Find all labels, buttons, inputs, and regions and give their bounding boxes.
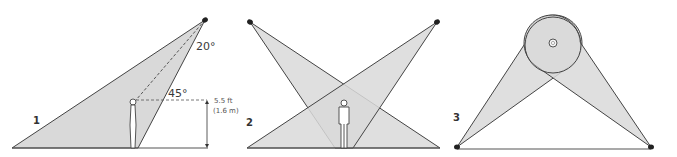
panel-2 [246,18,441,148]
panel-number-3: 3 [453,113,460,123]
arrow-head-up [205,100,209,104]
light-cone [12,20,205,148]
panel-3 [454,15,654,149]
diagram-canvas [0,0,677,157]
angle-label-20: 20° [196,41,216,52]
light-fixture-left [454,145,460,150]
person-figure [130,99,136,148]
height-label-ft: 5.5 ft [214,98,232,105]
center-object-icon [549,39,557,47]
lighting-diagram: 1 20° 45° 5.5 ft (1.6 m) 2 3 [0,0,677,157]
height-label-m: (1.6 m) [213,108,239,115]
panel-1 [12,16,209,148]
angle-label-45: 45° [168,88,188,99]
panel-number-2: 2 [246,118,253,128]
light-fixture-right [648,145,654,150]
panel-number-1: 1 [33,116,40,126]
